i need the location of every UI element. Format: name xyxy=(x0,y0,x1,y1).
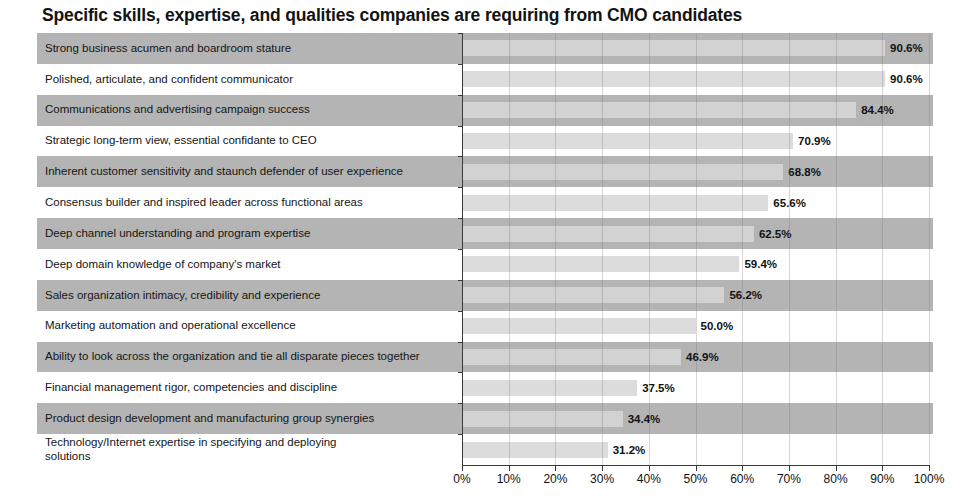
x-axis-tick-label: 50% xyxy=(683,472,707,487)
x-axis-tick xyxy=(462,466,463,471)
row-plot: 70.9% xyxy=(462,126,929,157)
table-row: Communications and advertising campaign … xyxy=(37,95,933,126)
category-label: Inherent customer sensitivity and staunc… xyxy=(45,165,460,179)
category-tick xyxy=(458,64,463,65)
table-row: Deep domain knowledge of company's marke… xyxy=(37,249,933,280)
row-plot: 90.6% xyxy=(462,64,929,95)
x-axis-tick-label: 100% xyxy=(914,472,945,487)
bar xyxy=(462,102,856,118)
x-axis-tick xyxy=(602,466,603,471)
bar-value-label: 65.6% xyxy=(773,197,806,209)
row-plot: 46.9% xyxy=(462,342,929,373)
x-axis-tick xyxy=(742,466,743,471)
bar-value-label: 56.2% xyxy=(729,289,762,301)
x-axis-tick-label: 0% xyxy=(453,472,470,487)
bar-value-label: 59.4% xyxy=(744,258,777,270)
category-label: Technology/Internet expertise in specify… xyxy=(45,436,460,463)
table-row: Product design development and manufactu… xyxy=(37,403,933,434)
table-row: Polished, articulate, and confident comm… xyxy=(37,64,933,95)
row-plot: 56.2% xyxy=(462,280,929,311)
chart-title: Specific skills, expertise, and qualitie… xyxy=(42,3,942,29)
category-tick xyxy=(458,342,463,343)
category-tick xyxy=(458,280,463,281)
x-axis-tick xyxy=(882,466,883,471)
x-axis-tick xyxy=(696,466,697,471)
table-row: Sales organization intimacy, credibility… xyxy=(37,280,933,311)
category-tick xyxy=(458,126,463,127)
category-tick xyxy=(458,372,463,373)
bar-value-label: 70.9% xyxy=(798,135,831,147)
x-axis-tick xyxy=(555,466,556,471)
bar-value-label: 90.6% xyxy=(890,73,923,85)
category-axis xyxy=(462,33,463,465)
category-label: Communications and advertising campaign … xyxy=(45,103,460,117)
row-plot: 34.4% xyxy=(462,403,929,434)
x-axis-tick-label: 80% xyxy=(824,472,848,487)
row-plot: 84.4% xyxy=(462,95,929,126)
bar xyxy=(462,349,681,365)
bar xyxy=(462,287,724,303)
row-plot: 68.8% xyxy=(462,156,929,187)
row-plot: 62.5% xyxy=(462,218,929,249)
bar xyxy=(462,226,754,242)
row-plot: 50.0% xyxy=(462,311,929,342)
category-label: Marketing automation and operational exc… xyxy=(45,319,460,333)
row-plot: 65.6% xyxy=(462,187,929,218)
chart-container: Specific skills, expertise, and qualitie… xyxy=(0,0,974,502)
category-tick xyxy=(458,156,463,157)
x-axis-tick-label: 90% xyxy=(870,472,894,487)
table-row: Deep channel understanding and program e… xyxy=(37,218,933,249)
category-label: Strong business acumen and boardroom sta… xyxy=(45,42,460,56)
bar-value-label: 31.2% xyxy=(613,444,646,456)
table-row: Ability to look across the organization … xyxy=(37,342,933,373)
table-row: Consensus builder and inspired leader ac… xyxy=(37,187,933,218)
row-plot: 59.4% xyxy=(462,249,929,280)
x-axis-tick-label: 60% xyxy=(730,472,754,487)
table-row: Financial management rigor, competencies… xyxy=(37,372,933,403)
x-axis-tick-label: 70% xyxy=(777,472,801,487)
row-plot: 90.6% xyxy=(462,33,929,64)
x-axis-tick xyxy=(509,466,510,471)
table-row: Strategic long-term view, essential conf… xyxy=(37,126,933,157)
table-row: Inherent customer sensitivity and staunc… xyxy=(37,156,933,187)
category-label: Product design development and manufactu… xyxy=(45,412,460,426)
bar xyxy=(462,133,793,149)
x-axis-tick-labels: 0%10%20%30%40%50%60%70%80%90%100% xyxy=(462,472,930,490)
bar-value-label: 37.5% xyxy=(642,382,675,394)
bar xyxy=(462,71,885,87)
category-label: Strategic long-term view, essential conf… xyxy=(45,134,460,148)
category-label: Consensus builder and inspired leader ac… xyxy=(45,196,460,210)
x-axis-tick xyxy=(789,466,790,471)
table-row: Strong business acumen and boardroom sta… xyxy=(37,33,933,64)
category-tick xyxy=(458,187,463,188)
value-axis xyxy=(462,465,930,466)
row-plot: 31.2% xyxy=(462,434,929,465)
bar xyxy=(462,40,885,56)
table-row: Marketing automation and operational exc… xyxy=(37,311,933,342)
x-axis-tick-label: 40% xyxy=(637,472,661,487)
bar-value-label: 84.4% xyxy=(861,104,894,116)
bar xyxy=(462,256,739,272)
bar-value-label: 68.8% xyxy=(788,166,821,178)
plot-area: Strong business acumen and boardroom sta… xyxy=(37,33,933,465)
category-label: Ability to look across the organization … xyxy=(45,350,460,364)
category-tick xyxy=(458,403,463,404)
bar xyxy=(462,318,696,334)
category-label: Deep domain knowledge of company's marke… xyxy=(45,258,460,272)
bar-value-label: 50.0% xyxy=(701,320,734,332)
x-axis-tick xyxy=(929,466,930,471)
category-tick xyxy=(458,33,463,34)
row-plot: 37.5% xyxy=(462,372,929,403)
bar xyxy=(462,411,623,427)
x-axis-tick-label: 30% xyxy=(590,472,614,487)
table-row: Technology/Internet expertise in specify… xyxy=(37,434,933,465)
category-tick xyxy=(458,249,463,250)
category-tick xyxy=(458,218,463,219)
category-label: Deep channel understanding and program e… xyxy=(45,227,460,241)
bar-value-label: 34.4% xyxy=(628,413,661,425)
category-label: Sales organization intimacy, credibility… xyxy=(45,289,460,303)
category-label: Polished, articulate, and confident comm… xyxy=(45,73,460,87)
bar xyxy=(462,442,608,458)
bar xyxy=(462,164,783,180)
x-axis-tick xyxy=(649,466,650,471)
